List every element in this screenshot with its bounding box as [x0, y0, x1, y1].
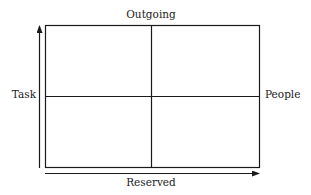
label-right: People	[265, 89, 300, 100]
label-top: Outgoing	[126, 9, 175, 20]
label-left: Task	[12, 89, 36, 100]
label-bottom: Reserved	[126, 177, 176, 188]
quadrant-diagram: Outgoing Reserved Task People	[0, 0, 311, 195]
